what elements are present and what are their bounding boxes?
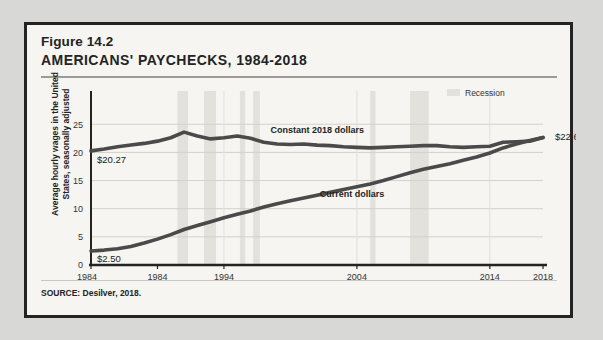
- recession-swatch-icon: [447, 89, 460, 96]
- y-tick-label: 15: [73, 176, 83, 186]
- source-divider: [41, 280, 557, 281]
- plot-area: Average hourly wages in the United State…: [27, 25, 576, 321]
- recession-band: [177, 91, 188, 265]
- screenshot-root: Figure 14.2 AMERICANS' PAYCHECKS, 1984-2…: [0, 0, 603, 340]
- y-tick-label: 10: [73, 204, 83, 214]
- y-tick-label: 5: [78, 232, 83, 242]
- line-chart: 0510152025198419841994200420142018Consta…: [27, 25, 576, 321]
- annotation-start-current: $2.50: [97, 253, 121, 264]
- recession-band: [370, 91, 375, 265]
- recession-band: [240, 91, 245, 265]
- y-tick-label: 20: [73, 148, 83, 158]
- y-tick-label: 25: [73, 120, 83, 130]
- recession-band: [253, 91, 260, 265]
- source-note: SOURCE: Desilver, 2018.: [41, 288, 141, 298]
- series-line-current-dollars: [91, 137, 543, 250]
- y-tick-label: 0: [78, 260, 83, 270]
- recession-band: [204, 91, 216, 265]
- series-label-constant: Constant 2018 dollars: [270, 125, 364, 135]
- annotation-start-constant: $20.27: [97, 154, 126, 165]
- recession-band: [410, 91, 429, 265]
- figure-card: Figure 14.2 AMERICANS' PAYCHECKS, 1984-2…: [24, 22, 573, 318]
- legend-label-recession: Recession: [465, 88, 505, 98]
- series-label-current: Current dollars: [320, 189, 385, 199]
- annotation-end-value: $22.65: [555, 131, 576, 142]
